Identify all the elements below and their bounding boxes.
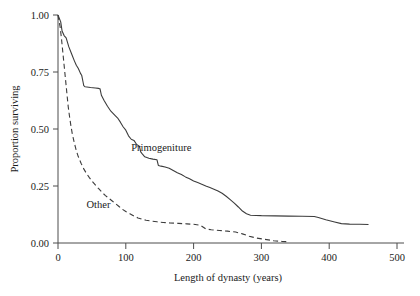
x-tick-label: 100: [118, 252, 134, 263]
x-axis: 0 100 200 300 400 500 Length of dynasty …: [55, 243, 405, 284]
series-label-other: Other: [86, 199, 110, 210]
series-label-primogeniture: Primogeniture: [131, 142, 191, 153]
chart-svg: 1.00 0.75 0.50 0.25 0.00 Proportion surv…: [0, 0, 420, 296]
x-axis-ticks: [58, 243, 397, 249]
y-axis-ticks: [53, 15, 58, 243]
x-tick-label: 400: [321, 252, 337, 263]
y-axis: 1.00 0.75 0.50 0.25 0.00 Proportion surv…: [9, 10, 58, 249]
x-tick-label: 0: [55, 252, 60, 263]
x-tick-label: 200: [186, 252, 202, 263]
x-tick-labels: 0 100 200 300 400 500: [55, 252, 405, 263]
x-tick-label: 500: [389, 252, 405, 263]
curve-primogeniture: [58, 15, 369, 225]
y-axis-title: Proportion surviving: [9, 85, 20, 173]
y-tick-label: 1.00: [31, 10, 49, 21]
survival-curve-figure: 1.00 0.75 0.50 0.25 0.00 Proportion surv…: [0, 0, 420, 296]
y-tick-label: 0.25: [31, 181, 49, 192]
series-annotations: Primogeniture Other: [86, 142, 191, 210]
y-tick-label: 0.75: [31, 67, 49, 78]
y-tick-labels: 1.00 0.75 0.50 0.25 0.00: [31, 10, 49, 249]
y-tick-label: 0.50: [31, 124, 49, 135]
x-tick-label: 300: [254, 252, 270, 263]
y-tick-label: 0.00: [31, 238, 49, 249]
x-axis-title: Length of dynasty (years): [174, 272, 283, 284]
